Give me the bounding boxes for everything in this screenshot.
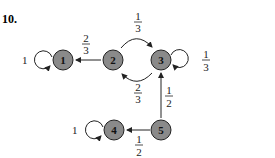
svg-text:1: 1 xyxy=(136,133,142,145)
node-1: 1 xyxy=(53,50,73,70)
markov-diagram: 10. 1 2 3 1 3 2 3 1 3 1 2 xyxy=(0,0,275,158)
svg-text:1: 1 xyxy=(72,124,78,136)
svg-text:3: 3 xyxy=(158,54,164,66)
node-5: 5 xyxy=(151,120,171,140)
svg-text:3: 3 xyxy=(135,93,141,105)
edge-4-4: 1 xyxy=(72,121,103,139)
svg-text:4: 4 xyxy=(111,124,117,136)
problem-number: 10. xyxy=(2,12,17,26)
svg-text:2: 2 xyxy=(136,146,142,158)
svg-text:3: 3 xyxy=(83,44,89,56)
edge-label: 1 xyxy=(22,54,28,66)
node-2: 2 xyxy=(103,50,123,70)
svg-text:2: 2 xyxy=(110,54,116,66)
svg-text:1: 1 xyxy=(166,84,172,96)
node-4: 4 xyxy=(104,120,124,140)
svg-text:2: 2 xyxy=(166,97,172,109)
svg-text:3: 3 xyxy=(203,61,209,73)
svg-text:2: 2 xyxy=(83,32,89,44)
svg-text:1: 1 xyxy=(135,10,141,22)
svg-text:1: 1 xyxy=(60,54,66,66)
edge-2-3: 1 3 xyxy=(121,10,152,48)
edge-3-3: 1 3 xyxy=(171,48,210,73)
svg-text:1: 1 xyxy=(203,48,209,60)
edge-2-1: 2 3 xyxy=(76,32,101,60)
edge-5-4: 1 2 xyxy=(127,130,150,158)
svg-text:2: 2 xyxy=(135,81,141,93)
node-3: 3 xyxy=(151,50,171,70)
svg-text:3: 3 xyxy=(135,22,141,34)
edge-1-1: 1 xyxy=(22,51,52,69)
edge-3-2: 2 3 xyxy=(122,73,152,105)
edge-5-3: 1 2 xyxy=(161,73,173,118)
svg-text:5: 5 xyxy=(158,124,164,136)
